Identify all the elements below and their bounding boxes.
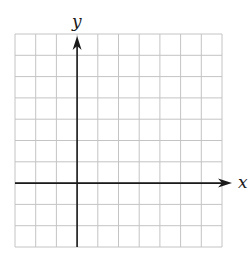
coordinate-plane: x y [0, 0, 250, 260]
grid-lines [15, 34, 222, 247]
x-axis-label: x [238, 172, 248, 192]
y-axis-label: y [71, 11, 82, 31]
